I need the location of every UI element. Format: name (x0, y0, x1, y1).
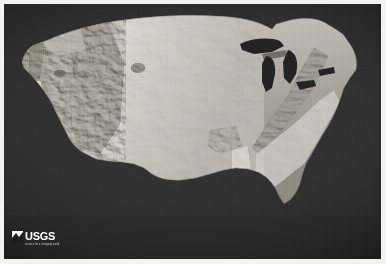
conterminous-us-landmass (14, 14, 357, 204)
shaded-relief-artwork (4, 4, 381, 259)
usgs-text-block: USGS science for a changing world (25, 231, 59, 247)
relief-grain-overlay (22, 15, 357, 204)
usgs-logo: USGS science for a changing world (12, 231, 59, 247)
great-salt-lake (54, 70, 66, 76)
usgs-wordmark: USGS (25, 231, 59, 242)
usgs-tagline: science for a changing world (25, 243, 59, 247)
usgs-wave-mark-icon (12, 231, 23, 242)
relief-map-image: USGS science for a changing world (4, 4, 381, 259)
figure-container: USGS science for a changing world (0, 0, 386, 264)
